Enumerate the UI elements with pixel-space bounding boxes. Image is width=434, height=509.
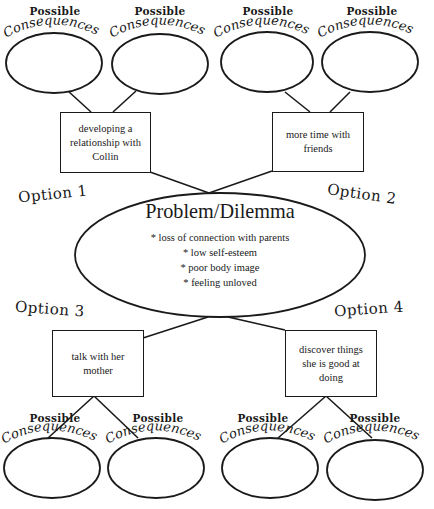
consequence-ellipse-1b[interactable] xyxy=(112,34,208,94)
possible-label: Possible xyxy=(5,412,105,424)
consequence-ellipse-4a[interactable] xyxy=(222,438,318,498)
problem-title: Problem/Dilemma xyxy=(128,198,312,224)
problem-item: * low self-esteem xyxy=(120,245,320,260)
option-2-box[interactable]: more time with friends xyxy=(272,112,364,172)
consequence-ellipse-2b[interactable] xyxy=(322,32,418,92)
problem-item: * feeling unloved xyxy=(120,275,320,290)
possible-label: Possible xyxy=(213,412,313,424)
consequence-ellipse-1a[interactable] xyxy=(6,33,102,93)
possible-label: Possible xyxy=(322,5,422,17)
consequence-ellipse-2a[interactable] xyxy=(221,32,313,92)
connector-line xyxy=(209,171,272,193)
connector-line xyxy=(285,92,310,112)
connector-line xyxy=(113,91,136,112)
consequence-ellipse-4b[interactable] xyxy=(327,440,423,500)
consequence-ellipse-3a[interactable] xyxy=(4,438,100,498)
option-1-box[interactable]: developing a relationship with Collin xyxy=(60,112,151,173)
consequence-ellipse-3b[interactable] xyxy=(108,438,204,498)
possible-label: Possible xyxy=(5,5,105,17)
possible-label: Possible xyxy=(108,412,208,424)
connector-line xyxy=(228,317,285,330)
connector-line xyxy=(143,317,208,338)
option-4-box[interactable]: discover things she is good at doing xyxy=(285,330,377,397)
decision-diagram: Consequences Consequences Consequences C… xyxy=(0,0,434,509)
possible-label: Possible xyxy=(325,412,425,424)
problem-item: * loss of connection with parents xyxy=(120,230,320,245)
connector-line xyxy=(150,172,209,193)
connector-line xyxy=(330,92,350,112)
option-3-box[interactable]: talk with her mother xyxy=(52,330,144,397)
possible-label: Possible xyxy=(110,5,210,17)
connector-line xyxy=(68,91,91,112)
problem-item: * poor body image xyxy=(120,260,320,275)
problem-list: * loss of connection with parents * low … xyxy=(120,230,320,290)
possible-label: Possible xyxy=(218,5,318,17)
